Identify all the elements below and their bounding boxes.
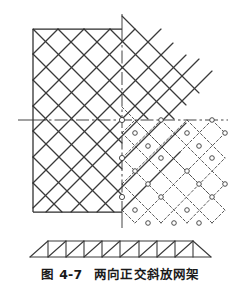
plan-view-diagram [0,0,241,236]
figure-caption-label: 图 4-7 [41,267,82,282]
truss-right-taper [193,241,211,257]
figure-container: 图 4-7 两向正交斜放网架 [0,0,241,286]
figure-caption: 图 4-7 两向正交斜放网架 [0,264,241,283]
truss-elevation-diagram [0,236,241,264]
bottom-chord-dashed-grid [122,107,225,223]
top-chord-solid-grid [33,16,212,212]
figure-caption-title: 两向正交斜放网架 [94,267,200,282]
truss-left-taper [30,241,48,257]
truss-verticals [48,241,193,257]
plan-boundary-rectangle [33,29,122,212]
